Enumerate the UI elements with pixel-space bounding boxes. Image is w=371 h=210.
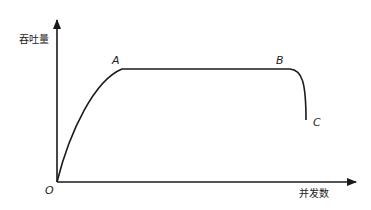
point-c-label: C (313, 117, 321, 128)
throughput-diagram (0, 0, 371, 210)
origin-label: O (45, 185, 54, 196)
point-b-label: B (276, 55, 284, 66)
throughput-curve (57, 69, 306, 182)
x-axis-label: 并发数 (299, 189, 329, 199)
point-a-label: A (112, 55, 120, 66)
y-axis-label: 吞吐量 (19, 35, 49, 45)
